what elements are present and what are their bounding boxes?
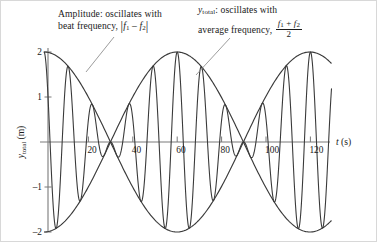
y-axis-title-subscript: total [20, 142, 27, 154]
ytotal-annotation-line1-rest: : oscillates with [215, 4, 277, 15]
ytotal-annotation-line2-prefix: average frequency, [198, 24, 275, 35]
x-axis-ticks [88, 137, 310, 143]
x-tick-label: 40 [132, 145, 142, 155]
frac-plus-operator: + [284, 18, 294, 28]
y-tick-label: 2 [37, 47, 42, 57]
x-tick-label: 60 [176, 145, 186, 155]
y-tick-label: –1 [32, 182, 43, 192]
svg-text:ytotal (m): ytotal (m) [15, 126, 27, 160]
leader-line-amplitude [86, 37, 114, 72]
average-frequency-fraction: f1 + f22 [276, 19, 302, 40]
minus-operator: – [130, 20, 140, 31]
svg-text:t (s): t (s) [336, 136, 351, 148]
frac-f2-subscript: 2 [296, 21, 300, 29]
x-tick-label: 20 [87, 145, 97, 155]
y-tick-label: –2 [32, 227, 43, 237]
x-tick-label: 80 [221, 145, 231, 155]
fraction-denominator: 2 [276, 30, 302, 39]
x-tick-label: 100 [265, 145, 279, 155]
axes-group [40, 48, 330, 232]
ytotal-waveform-curve [44, 52, 331, 229]
x-tick-labels: 20406080100120 [87, 145, 323, 155]
y-tick-label: 1 [37, 92, 42, 102]
ytotal-subscript: total [202, 8, 215, 16]
beats-waveform-figure: 20406080100120 21–1–2 t (s) ytotal (m) A… [0, 0, 377, 242]
leader-line-ytotal [196, 38, 230, 75]
amplitude-annotation-line2-prefix: beat frequency, [58, 20, 121, 31]
abs-bar-close: | [146, 19, 149, 33]
ytotal-annotation: ytotal: oscillates with average frequenc… [198, 4, 348, 39]
x-tick-label: 120 [309, 145, 323, 155]
y-axis-title-unit: (m) [15, 126, 27, 142]
x-axis-title-unit: (s) [339, 136, 352, 148]
x-axis-title: t (s) [336, 136, 351, 148]
amplitude-annotation: Amplitude: oscillates with beat frequenc… [58, 8, 186, 35]
y-axis-title: ytotal (m) [15, 126, 27, 160]
leader-lines-group [86, 37, 230, 75]
amplitude-annotation-line1: Amplitude: oscillates with [58, 8, 162, 19]
